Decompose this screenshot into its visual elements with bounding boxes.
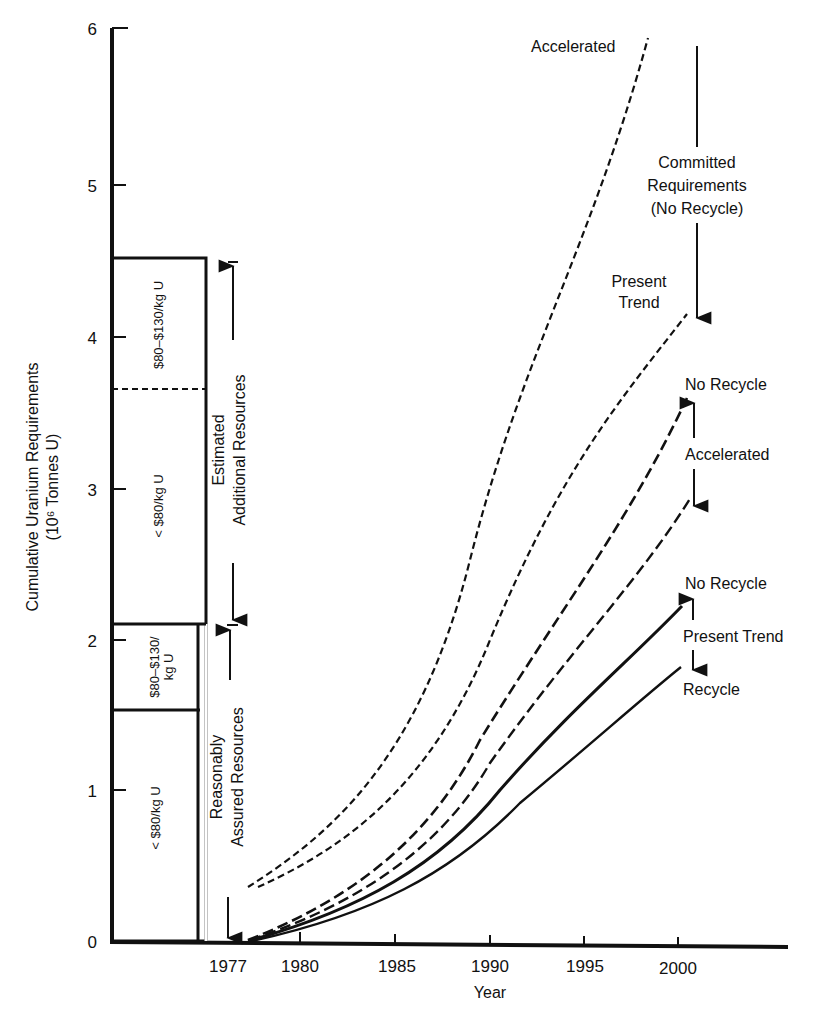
x-tick-1985: 1985 [378, 957, 416, 976]
curve-accelerated-recycle [250, 497, 691, 940]
x-axis: 1977 1980 1985 1990 1995 2000 Year [110, 932, 788, 1001]
x-tick-1990: 1990 [471, 957, 509, 976]
curve-committed-accelerated [248, 38, 648, 887]
x-tick-1995: 1995 [566, 957, 604, 976]
ear-high-label: $80–$130/kg U [151, 281, 166, 369]
curve-present-trend-no-recycle [248, 606, 682, 941]
ear-label-2: Additional Resources [231, 374, 248, 525]
y-tick-0: 0 [88, 933, 97, 952]
rar-high-label-1: $80–$130/ [147, 636, 162, 698]
ear-label-1: Estimated [210, 414, 227, 485]
uranium-requirements-chart: 6 5 4 3 2 1 0 Cumulative Uranium Require… [0, 0, 816, 1010]
label-committed-3: (No Recycle) [651, 200, 743, 217]
rar-label-2: Assured Resources [229, 707, 246, 847]
label-present: Present [611, 273, 667, 290]
label-accelerated-top: Accelerated [531, 38, 616, 55]
label-recycle: Recycle [683, 681, 740, 698]
label-no-recycle-accel: No Recycle [685, 376, 767, 393]
curve-accelerated-no-recycle [248, 398, 687, 940]
y-axis-units: (10⁶ Tonnes U) [44, 434, 61, 541]
y-tick-2: 2 [88, 632, 97, 651]
curve-committed-present-trend [258, 314, 687, 887]
resource-brackets: Estimated Additional Resources Reasonabl… [208, 262, 248, 938]
label-accelerated-mid: Accelerated [685, 446, 770, 463]
rar-low-label: < $80/kg U [148, 786, 163, 849]
annotations: Accelerated Committed Requirements (No R… [531, 38, 784, 698]
curve-present-trend-recycle [252, 667, 681, 941]
x-tick-2000: 2000 [659, 959, 697, 978]
label-trend: Trend [618, 294, 659, 311]
y-axis: 6 5 4 3 2 1 0 [88, 20, 128, 952]
y-tick-4: 4 [88, 329, 97, 348]
curves [248, 38, 691, 941]
y-tick-5: 5 [88, 177, 97, 196]
label-committed-1: Committed [658, 154, 735, 171]
x-axis-title: Year [474, 984, 507, 1001]
ear-low-label: < $80/kg U [151, 474, 166, 537]
rar-label-1: Reasonably [208, 735, 225, 820]
y-tick-1: 1 [88, 782, 97, 801]
y-axis-title: Cumulative Uranium Requirements [24, 363, 41, 612]
y-tick-6: 6 [88, 20, 97, 39]
x-tick-1980: 1980 [281, 957, 319, 976]
y-tick-3: 3 [88, 481, 97, 500]
label-present-trend: Present Trend [683, 628, 784, 645]
resource-bars: $80–$130/kg U < $80/kg U $80–$130/ kg U … [112, 258, 206, 941]
y-axis-label: Cumulative Uranium Requirements (10⁶ Ton… [24, 363, 61, 612]
label-no-recycle-present: No Recycle [685, 575, 767, 592]
label-committed-2: Requirements [647, 177, 747, 194]
rar-high-label-2: kg U [161, 654, 176, 681]
x-tick-1977: 1977 [209, 957, 247, 976]
